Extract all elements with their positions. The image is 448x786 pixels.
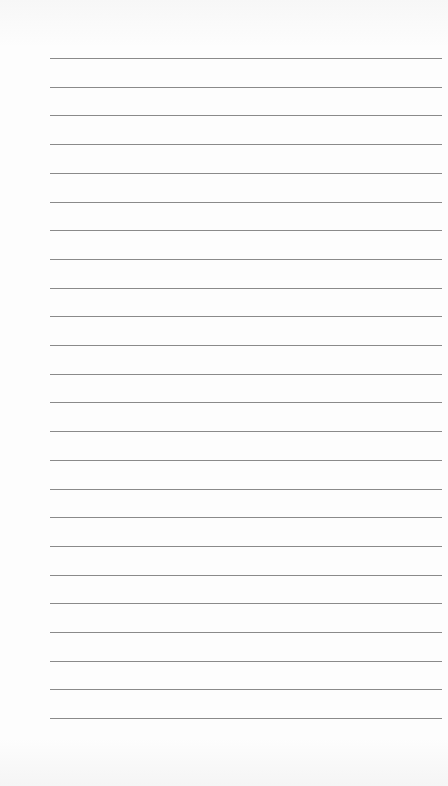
ruled-line xyxy=(50,202,442,203)
ruled-line xyxy=(50,517,442,518)
ruled-line xyxy=(50,173,442,174)
ruled-line xyxy=(50,718,442,719)
notepad-page xyxy=(0,0,448,786)
ruled-line xyxy=(50,144,442,145)
ruled-line xyxy=(50,575,442,576)
ruled-line xyxy=(50,431,442,432)
ruled-line xyxy=(50,489,442,490)
ruled-line xyxy=(50,58,442,59)
ruled-line xyxy=(50,230,442,231)
ruled-line xyxy=(50,402,442,403)
ruled-line xyxy=(50,661,442,662)
ruled-line xyxy=(50,603,442,604)
ruled-line xyxy=(50,345,442,346)
ruled-line xyxy=(50,288,442,289)
ruled-line xyxy=(50,374,442,375)
ruled-line xyxy=(50,546,442,547)
ruled-line xyxy=(50,259,442,260)
ruled-line xyxy=(50,689,442,690)
ruled-line xyxy=(50,115,442,116)
ruled-line xyxy=(50,316,442,317)
ruled-line xyxy=(50,460,442,461)
ruled-line xyxy=(50,632,442,633)
ruled-line xyxy=(50,87,442,88)
